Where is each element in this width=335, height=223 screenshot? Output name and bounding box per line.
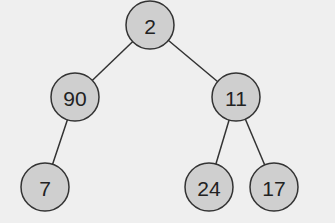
node-label: 2 xyxy=(144,15,156,38)
tree-node: 90 xyxy=(51,73,99,121)
node-label: 7 xyxy=(39,177,51,200)
tree-node: 24 xyxy=(185,163,233,211)
tree-node: 11 xyxy=(212,73,260,121)
tree-node: 7 xyxy=(21,163,69,211)
tree-node: 17 xyxy=(250,163,298,211)
tree-diagram: 2 90 11 7 24 17 xyxy=(0,0,335,223)
tree-node-root: 2 xyxy=(126,1,174,49)
node-label: 17 xyxy=(262,177,285,200)
node-label: 24 xyxy=(197,177,221,200)
node-label: 11 xyxy=(225,87,247,110)
node-label: 90 xyxy=(63,87,86,110)
